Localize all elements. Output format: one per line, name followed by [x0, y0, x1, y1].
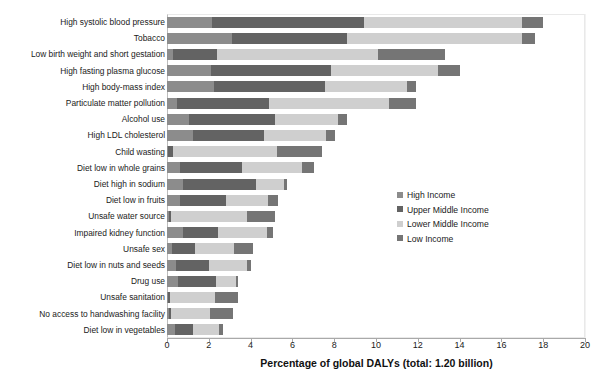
bar-row[interactable]: Particulate matter pollution: [0, 95, 602, 111]
stacked-bar[interactable]: [167, 179, 287, 190]
bar-segment[interactable]: [183, 179, 256, 190]
bar-segment[interactable]: [234, 243, 253, 254]
stacked-bar[interactable]: [167, 33, 535, 44]
bar-segment[interactable]: [277, 146, 322, 157]
bar-segment[interactable]: [302, 162, 315, 173]
bar-segment[interactable]: [173, 49, 217, 60]
bar-segment[interactable]: [247, 260, 250, 271]
bar-segment[interactable]: [175, 324, 193, 335]
stacked-bar[interactable]: [167, 292, 238, 303]
stacked-bar[interactable]: [167, 308, 233, 319]
bar-segment[interactable]: [338, 114, 346, 125]
bar-row[interactable]: High LDL cholesterol: [0, 127, 602, 143]
bar-segment[interactable]: [522, 33, 535, 44]
bar-segment[interactable]: [218, 227, 267, 238]
stacked-bar[interactable]: [167, 130, 335, 141]
bar-segment[interactable]: [284, 179, 287, 190]
bar-segment[interactable]: [236, 276, 238, 287]
legend-item[interactable]: Low Income: [397, 232, 527, 247]
bar-row[interactable]: No access to handwashing facility: [0, 306, 602, 322]
bar-segment[interactable]: [180, 162, 243, 173]
bar-segment[interactable]: [167, 276, 178, 287]
stacked-bar[interactable]: [167, 81, 416, 92]
bar-segment[interactable]: [189, 114, 275, 125]
bar-segment[interactable]: [226, 195, 269, 206]
stacked-bar[interactable]: [167, 211, 275, 222]
bar-segment[interactable]: [389, 98, 416, 109]
bar-row[interactable]: Alcohol use: [0, 111, 602, 127]
bar-row[interactable]: Low birth weight and short gestation: [0, 46, 602, 62]
stacked-bar[interactable]: [167, 65, 460, 76]
stacked-bar[interactable]: [167, 276, 238, 287]
bar-segment[interactable]: [167, 179, 183, 190]
bar-segment[interactable]: [167, 114, 189, 125]
bar-row[interactable]: Child wasting: [0, 144, 602, 160]
bar-row[interactable]: High body-mass index: [0, 79, 602, 95]
bar-segment[interactable]: [247, 211, 274, 222]
stacked-bar[interactable]: [167, 49, 445, 60]
stacked-bar[interactable]: [167, 162, 314, 173]
stacked-bar[interactable]: [167, 260, 251, 271]
stacked-bar[interactable]: [167, 146, 322, 157]
bar-segment[interactable]: [180, 195, 226, 206]
bar-segment[interactable]: [215, 292, 238, 303]
bar-row[interactable]: Tobacco: [0, 30, 602, 46]
bar-segment[interactable]: [256, 179, 284, 190]
bar-row[interactable]: Diet low in nuts and seeds: [0, 257, 602, 273]
bar-row[interactable]: Diet low in whole grains: [0, 160, 602, 176]
bar-segment[interactable]: [347, 33, 523, 44]
bar-segment[interactable]: [167, 227, 183, 238]
bar-segment[interactable]: [171, 211, 247, 222]
bar-segment[interactable]: [269, 98, 388, 109]
bar-segment[interactable]: [216, 276, 236, 287]
legend-item[interactable]: Upper Middle Income: [397, 203, 527, 218]
bar-segment[interactable]: [195, 243, 234, 254]
bar-segment[interactable]: [172, 243, 195, 254]
legend-item[interactable]: Lower Middle Income: [397, 217, 527, 232]
bar-segment[interactable]: [167, 195, 180, 206]
stacked-bar[interactable]: [167, 243, 253, 254]
bar-segment[interactable]: [326, 130, 335, 141]
bar-segment[interactable]: [209, 260, 248, 271]
bar-segment[interactable]: [183, 227, 219, 238]
bar-segment[interactable]: [522, 17, 543, 28]
bar-segment[interactable]: [167, 260, 176, 271]
stacked-bar[interactable]: [167, 98, 416, 109]
bar-segment[interactable]: [267, 227, 272, 238]
bar-segment[interactable]: [178, 276, 216, 287]
bar-segment[interactable]: [264, 130, 326, 141]
bar-segment[interactable]: [167, 65, 211, 76]
bar-segment[interactable]: [275, 114, 339, 125]
bar-segment[interactable]: [171, 308, 210, 319]
stacked-bar[interactable]: [167, 17, 543, 28]
bar-segment[interactable]: [217, 49, 378, 60]
bar-segment[interactable]: [211, 65, 331, 76]
bar-segment[interactable]: [167, 98, 177, 109]
bar-segment[interactable]: [214, 81, 325, 92]
bar-segment[interactable]: [331, 65, 438, 76]
bar-row[interactable]: Diet low in vegetables: [0, 322, 602, 338]
bar-segment[interactable]: [170, 292, 215, 303]
bar-row[interactable]: High fasting plasma glucose: [0, 63, 602, 79]
bar-segment[interactable]: [407, 81, 415, 92]
bar-segment[interactable]: [212, 17, 365, 28]
bar-segment[interactable]: [193, 130, 264, 141]
bar-segment[interactable]: [364, 17, 522, 28]
bar-row[interactable]: Unsafe sanitation: [0, 289, 602, 305]
bar-segment[interactable]: [167, 17, 212, 28]
bar-segment[interactable]: [438, 65, 460, 76]
stacked-bar[interactable]: [167, 324, 223, 335]
bar-segment[interactable]: [167, 324, 175, 335]
bar-segment[interactable]: [193, 324, 219, 335]
bar-segment[interactable]: [242, 162, 302, 173]
bar-segment[interactable]: [210, 308, 233, 319]
bar-segment[interactable]: [173, 146, 276, 157]
bar-segment[interactable]: [176, 260, 208, 271]
legend-item[interactable]: High Income: [397, 188, 527, 203]
bar-segment[interactable]: [378, 49, 445, 60]
bar-segment[interactable]: [219, 324, 223, 335]
bar-segment[interactable]: [325, 81, 408, 92]
bar-segment[interactable]: [167, 162, 180, 173]
bar-segment[interactable]: [167, 130, 193, 141]
stacked-bar[interactable]: [167, 114, 347, 125]
